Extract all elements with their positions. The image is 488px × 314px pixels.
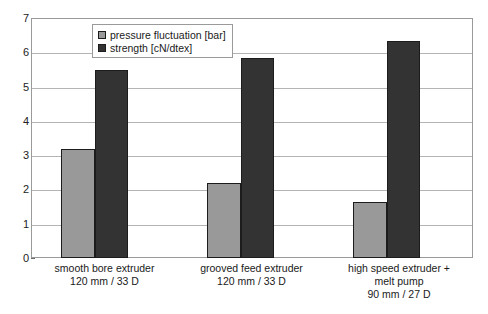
bar-strength-grooved-feed <box>241 58 274 258</box>
category-label-line-2: melt pump <box>325 275 473 288</box>
bar-pressure-grooved-feed <box>207 183 241 258</box>
category-label-high-speed-extruder: high speed extruder + melt pump 90 mm / … <box>325 262 473 301</box>
legend-swatch-icon-strength <box>98 44 106 52</box>
category-label-line-1: high speed extruder + <box>325 262 473 275</box>
bar-strength-high-speed <box>387 41 420 258</box>
y-tick-label-3: 3 <box>3 150 29 161</box>
category-label-line-1: smooth bore extruder <box>31 262 178 275</box>
category-label-grooved-feed-extruder: grooved feed extruder 120 mm / 33 D <box>178 262 325 288</box>
bar-strength-smooth-bore <box>95 70 128 258</box>
y-tick-mark-0 <box>31 258 35 259</box>
y-tick-label-1: 1 <box>3 219 29 230</box>
bar-pressure-smooth-bore <box>61 149 95 258</box>
legend-item-strength: strength [cN/dtex] <box>98 41 226 54</box>
category-label-line-2: 120 mm / 33 D <box>31 275 178 288</box>
legend-label-strength: strength [cN/dtex] <box>110 42 192 54</box>
category-label-line-2: 120 mm / 33 D <box>178 275 325 288</box>
chart-legend: pressure fluctuation [bar] strength [cN/… <box>92 24 233 58</box>
bar-pressure-high-speed <box>353 202 387 258</box>
y-tick-label-2: 2 <box>3 184 29 195</box>
y-tick-label-4: 4 <box>3 116 29 127</box>
category-label-line-1: grooved feed extruder <box>178 262 325 275</box>
y-tick-label-5: 5 <box>3 82 29 93</box>
bar-chart-figure: 7 6 5 4 3 2 1 0 pressure fluctuati <box>0 0 488 314</box>
category-label-smooth-bore-extruder: smooth bore extruder 120 mm / 33 D <box>31 262 178 288</box>
x-axis-category-labels: smooth bore extruder 120 mm / 33 D groov… <box>31 262 473 306</box>
legend-swatch-icon-pressure <box>98 31 106 39</box>
y-tick-label-6: 6 <box>3 47 29 58</box>
legend-item-pressure-fluctuation: pressure fluctuation [bar] <box>98 28 226 41</box>
category-label-line-3: 90 mm / 27 D <box>325 288 473 301</box>
y-tick-label-0: 0 <box>3 253 29 264</box>
y-tick-label-7: 7 <box>3 13 29 24</box>
y-axis: 7 6 5 4 3 2 1 0 <box>0 18 29 258</box>
legend-label-pressure: pressure fluctuation [bar] <box>110 29 226 41</box>
